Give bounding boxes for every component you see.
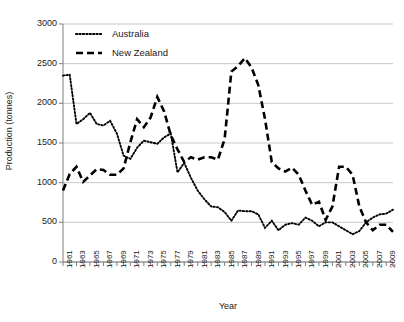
- x-tick-label: 1963: [79, 250, 87, 268]
- plot-area: [0, 0, 404, 322]
- x-tick-label: 1993: [282, 250, 290, 268]
- x-tick-label: 1985: [228, 250, 236, 268]
- x-tick-label: 1967: [106, 250, 114, 268]
- x-tick-label: 2001: [335, 250, 343, 268]
- x-tick-label: 1989: [255, 250, 263, 268]
- x-tick-label: 1997: [308, 250, 316, 268]
- gridlines: [63, 24, 393, 262]
- legend-label-new-zealand: New Zealand: [112, 48, 168, 58]
- x-tick-label: 1983: [214, 250, 222, 268]
- x-tick-label: 1965: [93, 250, 101, 268]
- x-tick-label: 1969: [120, 250, 128, 268]
- x-tick-label: 2007: [376, 250, 384, 268]
- x-tick-label: 2009: [389, 250, 397, 268]
- x-tick-label: 2005: [362, 250, 370, 268]
- x-axis-title: Year: [63, 301, 393, 311]
- x-tick-label: 1973: [147, 250, 155, 268]
- x-tick-label: 1979: [187, 250, 195, 268]
- x-tick-label: 1971: [133, 250, 141, 268]
- chart-figure: Production (tonnes) 05001000150020002500…: [0, 0, 404, 322]
- x-tick-label: 1987: [241, 250, 249, 268]
- legend-label-australia: Australia: [112, 29, 149, 39]
- x-axis-title-text: Year: [219, 301, 237, 311]
- data-series: [63, 58, 393, 234]
- x-tick-label: 1961: [66, 250, 74, 268]
- x-tick-label: 1977: [174, 250, 182, 268]
- series-line-new-zealand: [63, 58, 393, 232]
- x-tick-label: 1975: [160, 250, 168, 268]
- x-tick-label: 1991: [268, 250, 276, 268]
- x-tick-label: 1995: [295, 250, 303, 268]
- x-tick-label: 1981: [201, 250, 209, 268]
- x-tick-label: 2003: [349, 250, 357, 268]
- legend-markers: [76, 34, 102, 53]
- x-tick-label: 1999: [322, 250, 330, 268]
